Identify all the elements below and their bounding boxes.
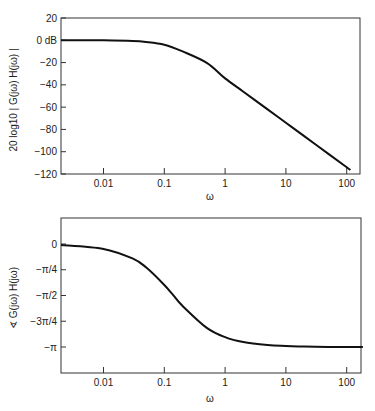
magnitude-x-ticks: 0.010.1110100 bbox=[94, 168, 356, 189]
y-tick-label: 0 dB bbox=[36, 35, 57, 46]
y-tick-label: −20 bbox=[40, 57, 57, 68]
phase-x-axis-title: ω bbox=[206, 393, 214, 404]
x-tick-label: 100 bbox=[338, 178, 355, 189]
magnitude-curve bbox=[61, 40, 350, 170]
phase-curve bbox=[61, 245, 363, 347]
y-tick-label: −100 bbox=[34, 146, 57, 157]
magnitude-frame bbox=[61, 18, 360, 174]
x-tick-label: 10 bbox=[280, 178, 292, 189]
y-tick-label: −π bbox=[44, 342, 57, 353]
x-tick-label: 0.1 bbox=[157, 178, 171, 189]
y-tick-label: −π/2 bbox=[36, 290, 58, 301]
y-tick-label: −π/4 bbox=[36, 264, 58, 275]
y-tick-label: −40 bbox=[40, 79, 57, 90]
x-tick-label: 0.01 bbox=[94, 377, 114, 388]
y-tick-label: −120 bbox=[34, 169, 57, 180]
bode-plot: 200 dB−20−40−60−80−100−120 0.010.1110100… bbox=[0, 0, 375, 411]
y-tick-label: −3π/4 bbox=[30, 316, 57, 327]
magnitude-plot: 200 dB−20−40−60−80−100−120 0.010.1110100… bbox=[8, 13, 360, 203]
phase-x-ticks: 0.010.1110100 bbox=[94, 367, 356, 388]
phase-frame bbox=[61, 218, 361, 373]
magnitude-x-axis-title: ω bbox=[206, 191, 214, 202]
x-tick-label: 100 bbox=[338, 377, 355, 388]
magnitude-y-axis-title: 20 log10 | G(jω) H(jω) | bbox=[8, 48, 19, 151]
y-tick-label: 20 bbox=[46, 13, 58, 24]
x-tick-label: 0.1 bbox=[157, 377, 171, 388]
y-tick-label: −80 bbox=[40, 124, 57, 135]
x-tick-label: 0.01 bbox=[94, 178, 114, 189]
x-tick-label: 1 bbox=[222, 377, 228, 388]
x-tick-label: 1 bbox=[222, 178, 228, 189]
y-tick-label: −60 bbox=[40, 102, 57, 113]
y-tick-label: 0 bbox=[51, 239, 57, 250]
phase-y-axis-title: ∢ G(jω) H(jω) bbox=[8, 267, 19, 329]
phase-plot: 0−π/4−π/2−3π/4−π 0.010.1110100 ω ∢ G(jω)… bbox=[8, 218, 363, 404]
x-tick-label: 10 bbox=[280, 377, 292, 388]
